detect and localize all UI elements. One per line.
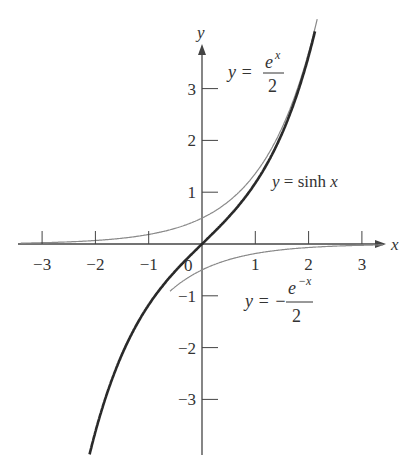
x-tick-label: 2 [304, 255, 313, 274]
annotation-ex-over-2: y = e x 2 [226, 48, 284, 96]
svg-text:y =: y = [226, 62, 253, 82]
x-tick-label: 3 [358, 255, 367, 274]
y-axis-arrow [198, 44, 206, 55]
y-tick-label: −2 [178, 339, 196, 358]
annotation-neg-emx-over-2: y = − e −x 2 [243, 274, 313, 326]
y-tick-label: 3 [188, 80, 197, 99]
origin-label: 0 [184, 256, 193, 275]
x-tick-label: −2 [86, 255, 104, 274]
y-axis-label: y [195, 23, 205, 42]
y-tick-label: −3 [178, 390, 196, 409]
svg-text:y = −: y = − [243, 291, 286, 311]
axes [18, 44, 386, 455]
y-tick-label: 2 [188, 131, 197, 150]
annotation-sinh: y = sinh x [270, 172, 338, 191]
svg-text:e: e [288, 278, 296, 298]
sinh-chart: −3−2−1123−3−2−1123 x y 0 y = e x 2 y = s… [0, 0, 417, 465]
svg-text:e: e [265, 52, 273, 72]
x-axis-arrow [375, 240, 386, 248]
x-tick-label: −3 [33, 255, 51, 274]
y-tick-label: −1 [178, 287, 196, 306]
x-tick-label: −1 [140, 255, 158, 274]
svg-text:2: 2 [268, 76, 277, 96]
y-tick-label: 1 [188, 183, 197, 202]
svg-text:x: x [274, 48, 281, 62]
x-tick-label: 1 [251, 255, 260, 274]
svg-text:−x: −x [298, 274, 312, 288]
svg-text:2: 2 [292, 306, 301, 326]
x-axis-label: x [390, 235, 399, 254]
